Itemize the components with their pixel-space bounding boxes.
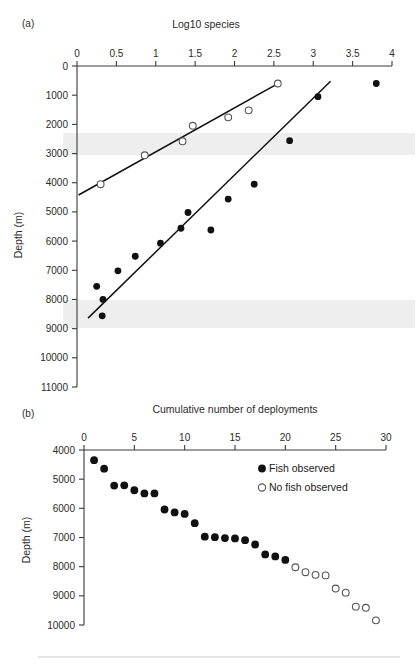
panel-b-x-tick-label: 20 — [280, 432, 292, 443]
panel-b-point-filled — [211, 533, 219, 541]
panel-b-legend: Fish observedNo fish observed — [258, 462, 348, 493]
panel-b-point-open — [362, 604, 369, 611]
panel-a-point-open — [189, 122, 196, 129]
panel-a-point-open — [179, 138, 186, 145]
panel-b-point-filled — [251, 541, 259, 549]
legend-label-fish-observed: Fish observed — [269, 462, 335, 474]
panel-a-y-tick-label: 9000 — [46, 323, 69, 334]
panel-b-point-open — [322, 572, 329, 579]
panel-a-x-axis-title: Log10 species — [172, 18, 240, 30]
panel-b-y-tick-label: 5000 — [53, 474, 76, 485]
panel-b-x-tick-label: 5 — [132, 432, 138, 443]
panel-b-point-filled — [201, 533, 209, 541]
panel-b-point-filled — [90, 456, 98, 464]
panel-a-x-tick-label: 4 — [389, 48, 395, 59]
panel-a-point-filled — [185, 209, 192, 216]
panel-b-point-filled — [281, 556, 289, 564]
panel-b-point-filled — [191, 519, 199, 527]
panel-a-trend-line — [88, 81, 331, 318]
panel-a-y-tick-label: 1000 — [46, 90, 69, 101]
legend-marker-fish-observed — [258, 465, 266, 473]
panel-b-series-no-fish-observed — [292, 564, 379, 624]
panel-a-y-tick-label: 0 — [62, 61, 68, 72]
panel-a: (a)Log10 species00.511.522.533.540100020… — [12, 18, 395, 393]
panel-a-point-open — [225, 114, 232, 121]
panel-b-y-tick-label: 6000 — [53, 503, 76, 514]
panel-b: (b)Cumulative number of deployments05101… — [20, 403, 392, 631]
panel-b-point-filled — [110, 482, 118, 490]
panel-a-y-axis-title: Depth (m) — [12, 212, 24, 259]
panel-a-x-tick-label: 0.5 — [109, 48, 123, 59]
panel-b-y-tick-label: 8000 — [53, 561, 76, 572]
scan-band-2 — [63, 300, 415, 328]
panel-b-y-tick-label: 9000 — [53, 590, 76, 601]
panel-b-point-filled — [261, 551, 269, 559]
panel-a-y-tick-label: 2000 — [46, 119, 69, 130]
panel-a-point-filled — [207, 227, 214, 234]
panel-a-x-tick-label: 3 — [310, 48, 316, 59]
panel-a-point-filled — [286, 137, 293, 144]
panel-a-point-filled — [373, 80, 380, 87]
panel-b-point-filled — [161, 506, 169, 514]
panel-a-x-tick-label: 0 — [74, 48, 80, 59]
panel-a-point-filled — [132, 253, 139, 260]
panel-a-y-tick-label: 7000 — [46, 265, 69, 276]
panel-b-x-tick-label: 30 — [380, 432, 392, 443]
panel-b-point-open — [373, 617, 380, 624]
panel-b-point-filled — [241, 536, 249, 544]
panel-b-y-tick-label: 10000 — [47, 620, 75, 631]
panel-b-point-open — [332, 585, 339, 592]
panel-b-label: (b) — [22, 408, 34, 419]
panel-a-point-open — [274, 80, 281, 87]
panel-b-point-open — [342, 589, 349, 596]
panel-a-point-filled — [115, 267, 122, 274]
panel-a-point-filled — [251, 181, 258, 188]
panel-b-point-filled — [171, 509, 179, 517]
panel-a-point-filled — [157, 240, 164, 247]
panel-a-point-open — [245, 107, 252, 114]
panel-a-y-tick-label: 11000 — [41, 382, 69, 393]
panel-b-point-filled — [181, 510, 189, 518]
panel-b-point-filled — [100, 465, 108, 473]
panel-b-point-open — [292, 564, 299, 571]
panel-a-x-tick-label: 2 — [232, 48, 238, 59]
panel-a-point-open — [97, 181, 104, 188]
panel-a-point-filled — [315, 93, 322, 100]
panel-a-x-tick-label: 1 — [153, 48, 159, 59]
panel-a-point-filled — [99, 312, 106, 319]
scientific-figure: (a)Log10 species00.511.522.533.540100020… — [0, 0, 416, 668]
panel-b-y-axis-title: Depth (m) — [20, 517, 32, 564]
panel-a-point-filled — [93, 283, 100, 290]
panel-b-x-tick-label: 25 — [330, 432, 342, 443]
panel-b-x-axis-title: Cumulative number of deployments — [152, 403, 317, 415]
panel-b-point-open — [302, 569, 309, 576]
scan-artifact-bands — [63, 133, 415, 328]
panel-b-y-tick-label: 4000 — [53, 445, 76, 456]
panel-a-x-tick-label: 1.5 — [188, 48, 202, 59]
panel-b-point-filled — [130, 486, 138, 494]
panel-a-series-fish-observed — [88, 80, 380, 319]
panel-b-point-filled — [231, 534, 239, 542]
panel-a-point-open — [141, 152, 148, 159]
legend-label-no-fish-observed: No fish observed — [269, 481, 348, 493]
panel-a-y-tick-label: 6000 — [46, 236, 69, 247]
panel-b-x-tick-label: 0 — [81, 432, 87, 443]
panel-b-point-filled — [271, 553, 279, 561]
panel-a-label: (a) — [22, 18, 34, 29]
panel-a-y-tick-label: 5000 — [46, 206, 69, 217]
panel-b-series-fish-observed — [90, 456, 289, 564]
panel-b-y-tick-label: 7000 — [53, 532, 76, 543]
panel-b-point-filled — [221, 534, 229, 542]
panel-b-point-filled — [120, 481, 128, 489]
panel-a-y-tick-label: 10000 — [40, 352, 68, 363]
panel-a-point-filled — [225, 196, 232, 203]
panel-a-y-tick-label: 3000 — [46, 148, 69, 159]
panel-b-point-open — [312, 571, 319, 578]
panel-a-y-tick-label: 4000 — [46, 177, 69, 188]
panel-a-point-filled — [100, 296, 107, 303]
scan-band-1 — [63, 133, 415, 155]
panel-b-point-filled — [151, 490, 159, 498]
panel-a-y-tick-label: 8000 — [46, 294, 69, 305]
panel-a-point-filled — [178, 225, 185, 232]
panel-b-x-tick-label: 10 — [179, 432, 191, 443]
